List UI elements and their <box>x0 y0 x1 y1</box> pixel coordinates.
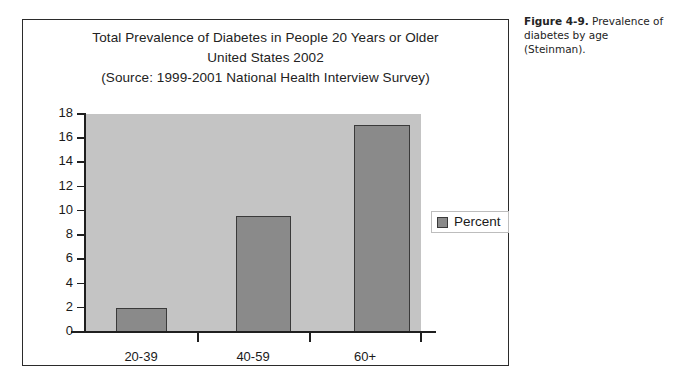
x-axis-line <box>71 331 436 333</box>
figure-caption-label: Figure 4-9. <box>524 15 589 27</box>
y-tick-label-6: 6 <box>37 251 73 264</box>
legend-label-percent: Percent <box>454 215 501 229</box>
chart-frame: Total Prevalence of Diabetes in People 2… <box>22 19 509 366</box>
y-tick-mark-8 <box>77 234 85 236</box>
y-tick-label-16: 16 <box>37 130 73 143</box>
chart-title-line-3: (Source: 1999-2001 National Health Inter… <box>23 68 508 88</box>
x-tick-mark-3 <box>420 333 422 342</box>
y-tick-label-2: 2 <box>37 300 73 313</box>
chart-title-line-2: United States 2002 <box>23 48 508 68</box>
chart-legend: Percent <box>431 211 509 233</box>
y-tick-label-0: 0 <box>37 324 73 337</box>
y-tick-mark-14 <box>77 161 85 163</box>
y-tick-mark-18 <box>77 113 85 115</box>
x-tick-mark-2 <box>309 333 311 342</box>
y-tick-label-12: 12 <box>37 179 73 192</box>
y-axis-line <box>84 113 86 333</box>
y-tick-label-8: 8 <box>37 227 73 240</box>
y-tick-mark-4 <box>77 283 85 285</box>
y-tick-mark-2 <box>77 307 85 309</box>
x-tick-label-40-59: 40-59 <box>198 350 308 364</box>
y-tick-label-18: 18 <box>37 106 73 119</box>
chart-title-line-1: Total Prevalence of Diabetes in People 2… <box>23 28 508 48</box>
y-tick-label-4: 4 <box>37 276 73 289</box>
bar-40-59 <box>236 216 291 332</box>
y-tick-mark-12 <box>77 186 85 188</box>
chart-title: Total Prevalence of Diabetes in People 2… <box>23 28 508 88</box>
y-tick-mark-10 <box>77 210 85 212</box>
y-tick-mark-6 <box>77 258 85 260</box>
y-tick-label-14: 14 <box>37 154 73 167</box>
plot-area <box>85 114 421 332</box>
x-tick-label-60-plus: 60+ <box>310 350 420 364</box>
y-tick-mark-16 <box>77 137 85 139</box>
bar-20-39 <box>116 308 167 332</box>
legend-swatch-percent <box>437 217 448 228</box>
bar-60-plus <box>354 125 410 332</box>
figure-caption: Figure 4-9. Prevalence of diabetes by ag… <box>524 14 664 56</box>
y-tick-mark-0 <box>77 331 85 333</box>
x-tick-mark-1 <box>197 333 199 342</box>
y-tick-label-10: 10 <box>37 203 73 216</box>
x-tick-label-20-39: 20-39 <box>86 350 196 364</box>
